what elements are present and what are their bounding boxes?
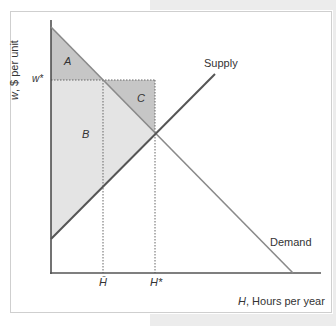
wstar-tick-label: w*	[32, 73, 43, 84]
chart-plot	[0, 0, 336, 326]
hbar-tick-label: H̄	[99, 276, 107, 288]
region-a-label: A	[64, 55, 71, 67]
x-axis-label: H, Hours per year	[238, 295, 325, 307]
demand-label: Demand	[270, 236, 312, 248]
region-c-label: C	[137, 92, 145, 104]
hstar-tick-label: H*	[150, 276, 162, 288]
supply-label: Supply	[204, 57, 238, 69]
y-axis-label: w, $ per unit	[8, 40, 20, 100]
region-b-label: B	[82, 128, 89, 140]
